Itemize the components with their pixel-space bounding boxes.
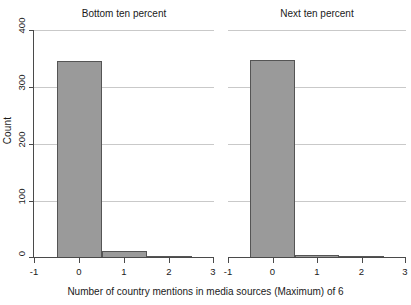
x-tickmark-left-2 <box>169 258 170 263</box>
y-tick-label-200: 200 <box>13 134 31 144</box>
panel-bottom-ten-percent: Bottom ten percent <box>34 8 214 283</box>
gridline-400-left <box>34 30 214 31</box>
x-tick-label-right-3: 3 <box>393 266 411 277</box>
x-tick-label-left--1: -1 <box>22 266 46 277</box>
x-tickmark-right-1 <box>317 258 318 263</box>
histogram-figure: Count 0 100 200 300 400 Bottom ten perce… <box>0 0 411 305</box>
x-tickmark-left-0 <box>79 258 80 263</box>
y-axis-title-text: Count <box>3 116 14 144</box>
x-tickmark-right-0 <box>273 258 274 263</box>
y-tick-label-300: 300 <box>13 77 31 87</box>
bar-right-0 <box>250 60 295 258</box>
panel-next-ten-percent: Next ten percent -1 0 1 2 <box>228 8 406 283</box>
y-tick-label-100: 100 <box>13 191 31 201</box>
x-tickmark-left-1 <box>124 258 125 263</box>
y-tickmark-400 <box>29 30 34 31</box>
x-tickmark-left-3 <box>213 258 214 263</box>
x-tickmark-right-2 <box>362 258 363 263</box>
y-tickmark-200 <box>29 144 34 145</box>
x-tick-label-right--1: -1 <box>216 266 240 277</box>
gridline-400-right <box>228 30 406 31</box>
x-tickmark-right--1 <box>228 258 229 263</box>
bar-left-0 <box>57 61 102 258</box>
x-tick-label-right-1: 1 <box>305 266 329 277</box>
x-tickmark-left--1 <box>34 258 35 263</box>
x-tick-label-right-0: 0 <box>261 266 285 277</box>
x-tick-label-left-1: 1 <box>112 266 136 277</box>
x-tick-label-right-2: 2 <box>350 266 374 277</box>
x-tick-label-left-2: 2 <box>157 266 181 277</box>
x-axis-title: Number of country mentions in media sour… <box>0 286 411 297</box>
plot-area-right: -1 0 1 2 3 <box>228 30 406 258</box>
panel-title-left: Bottom ten percent <box>34 8 214 19</box>
panel-container: Bottom ten percent <box>34 8 406 283</box>
y-tickmark-100 <box>29 201 34 202</box>
y-tickmark-300 <box>29 87 34 88</box>
x-tickmark-right-3 <box>405 258 406 263</box>
y-tick-label-400: 400 <box>13 20 31 30</box>
x-tick-label-left-0: 0 <box>67 266 91 277</box>
panel-title-right: Next ten percent <box>228 8 406 19</box>
plot-area-left: -1 0 1 2 3 <box>34 30 214 258</box>
